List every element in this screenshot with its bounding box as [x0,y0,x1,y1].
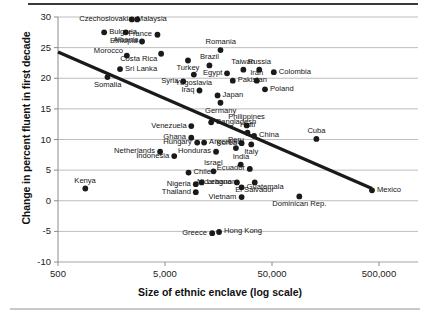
data-point [239,194,245,200]
data-point-label: Egypt [203,69,222,77]
data-point-label: Honduras [178,147,211,155]
data-point-label: Venezuela [151,122,186,130]
data-point-label: India [233,153,249,161]
data-point-label: Greece [182,229,207,237]
data-point [240,67,246,73]
data-point-label: Vietnam [209,193,237,201]
data-point [224,70,230,76]
data-point-label: Hungary [163,138,192,146]
data-point-label: France [128,30,152,38]
data-point-label: Thailand [162,188,191,196]
data-point-label: Hong Kong [224,227,262,235]
data-point-label: Costa Rica [120,55,157,63]
data-point [197,88,203,94]
data-point-label: El Salvador [235,186,274,194]
data-point-label: Ecuador [217,164,245,172]
data-point-label: Peru [228,136,244,144]
data-point-label: Dominican Rep. [272,200,326,208]
data-point [193,189,199,195]
data-point-label: Japan [223,91,244,99]
data-point [101,29,107,35]
data-point-label: Poland [270,85,294,93]
data-point [188,123,194,129]
data-point-label: Russia [248,58,271,66]
data-point-label: Turkey [176,64,199,72]
data-point [216,229,222,235]
data-point-label: Indonesia [136,152,169,160]
data-point-label: China [259,131,279,139]
data-point [218,100,224,106]
data-point-label: Nicaragua [197,178,232,186]
data-point [158,51,164,57]
data-point-label: Syria [161,77,178,85]
data-point [247,166,253,172]
data-point [82,186,88,192]
data-point [271,69,277,75]
scatter-chart-figure: Change in percent fluent in first decade… [0,0,429,313]
data-point-label: Iran [250,69,263,77]
data-point [194,140,200,146]
data-point-label: Chile [194,168,211,176]
data-point-label: Iraq [181,86,194,94]
data-point-label: Pakistan [238,76,267,84]
data-point-label: Haiti [240,121,255,129]
data-point-label: Cuba [307,127,325,135]
data-point [251,133,257,139]
data-point-label: Mexico [377,186,401,194]
data-point [171,153,177,159]
data-point [139,39,145,45]
plot-canvas [0,0,429,313]
data-point-label: Colombia [279,68,311,76]
data-point [245,130,251,136]
data-point [209,230,215,236]
data-point [215,93,221,99]
data-point [369,187,375,193]
data-point [230,78,236,84]
data-point [208,119,214,125]
data-point [211,168,217,174]
data-point-label: Sri Lanka [125,65,157,73]
data-point-label: Czechoslovakia [79,15,132,23]
data-point [117,66,123,72]
data-point-label: Romania [205,38,235,46]
data-point-label: Kenya [74,177,96,185]
data-point [186,170,192,176]
data-point-label: Brazil [200,53,219,61]
data-point [213,149,219,155]
data-point [262,86,268,92]
data-point [201,140,207,146]
data-point [314,136,320,142]
data-point-label: Morocco [94,47,123,55]
data-point [191,72,197,78]
data-point [155,32,161,38]
data-point-label: Somalia [94,81,121,89]
data-point-label: Malaysia [137,15,167,23]
